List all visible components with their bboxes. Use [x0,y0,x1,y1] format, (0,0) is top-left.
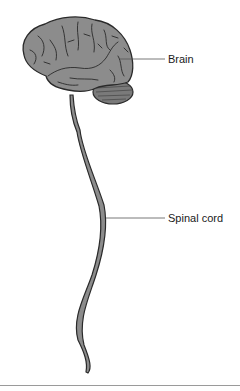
cns-illustration [0,0,240,391]
spinal-cord-shape [70,95,106,373]
brain-label: Brain [168,53,194,65]
bottom-rule [0,385,240,386]
brain-shape [23,17,133,91]
spinal-cord-label: Spinal cord [168,212,223,224]
cns-diagram: Brain Spinal cord [0,0,240,391]
